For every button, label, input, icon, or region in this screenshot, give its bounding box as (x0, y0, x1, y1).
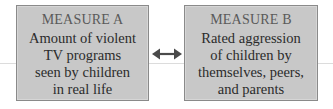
measure-a-line: TV programs (17, 47, 148, 64)
measure-a-line: in real life (17, 81, 148, 98)
measure-a-box: MEASURE A Amount of violent TV programs … (16, 5, 149, 101)
double-headed-arrow-icon (152, 47, 182, 61)
measure-a-line: Amount of violent (17, 30, 148, 47)
measure-b-line: Rated aggression (185, 30, 317, 47)
measure-b-description: Rated aggression of children by themselv… (185, 30, 317, 98)
measure-b-box: MEASURE B Rated aggression of children b… (184, 5, 318, 101)
measure-a-line: seen by children (17, 64, 148, 81)
measure-a-title: MEASURE A (17, 12, 148, 28)
measure-b-line: of children by (185, 47, 317, 64)
measure-b-line: themselves, peers, (185, 64, 317, 81)
measure-a-description: Amount of violent TV programs seen by ch… (17, 30, 148, 98)
measure-b-title: MEASURE B (185, 12, 317, 28)
measure-b-line: and parents (185, 81, 317, 98)
